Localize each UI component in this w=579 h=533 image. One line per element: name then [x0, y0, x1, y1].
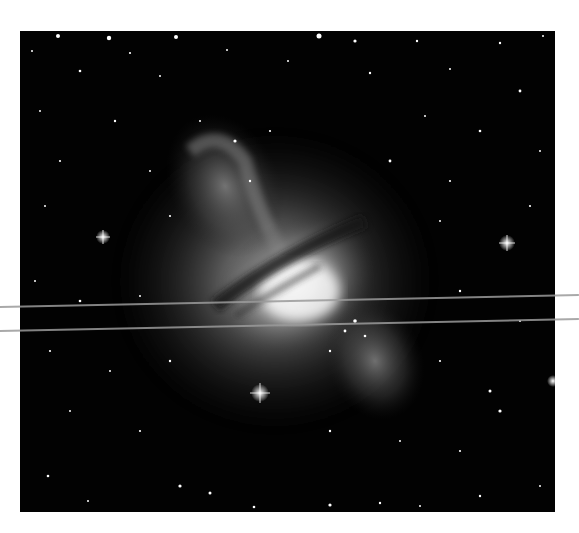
- galaxy-photo: [20, 31, 555, 512]
- galaxy-render: [20, 31, 555, 512]
